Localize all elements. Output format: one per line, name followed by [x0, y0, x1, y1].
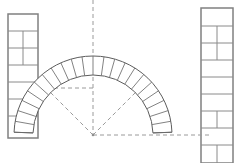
- arch-centre-point: [92, 134, 95, 137]
- masonry-arch-figure: Semicircular masonry arch with voussoirs…: [0, 0, 237, 163]
- right-pier: [201, 8, 233, 163]
- radius-line: [93, 93, 135, 135]
- radius-line: [51, 93, 93, 135]
- masonry-arch-drawing: [0, 0, 237, 163]
